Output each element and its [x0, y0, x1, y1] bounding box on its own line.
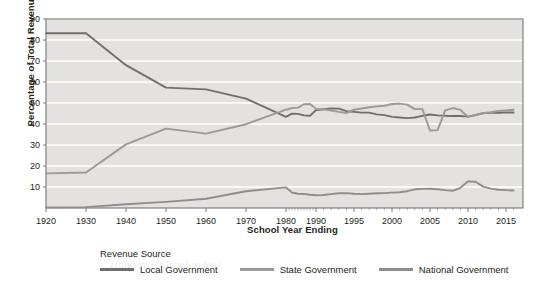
- legend-item-national-government[interactable]: National Government: [379, 264, 509, 275]
- chart-figure: 1020304050607080901920193019401950196019…: [0, 0, 545, 292]
- legend-swatch-icon: [379, 268, 413, 271]
- legend-item-label: State Government: [280, 264, 357, 275]
- chart-legend: Revenue Source Local GovernmentState Gov…: [100, 248, 509, 275]
- legend-swatch-icon: [240, 268, 274, 271]
- x-axis-title: School Year Ending: [0, 224, 545, 235]
- y-axis-title: Percentage of Total Revenues: [25, 0, 36, 148]
- y-tick-label: 10: [30, 182, 40, 192]
- legend-swatch-icon: [100, 268, 134, 271]
- y-tick-label: 20: [30, 161, 40, 171]
- plot-area-background: [46, 19, 523, 208]
- legend-title: Revenue Source: [100, 248, 509, 259]
- legend-items: Local GovernmentState GovernmentNational…: [100, 264, 509, 275]
- legend-item-local-government[interactable]: Local Government: [100, 264, 218, 275]
- legend-item-label: Local Government: [140, 264, 218, 275]
- legend-item-state-government[interactable]: State Government: [240, 264, 357, 275]
- legend-item-label: National Government: [419, 264, 509, 275]
